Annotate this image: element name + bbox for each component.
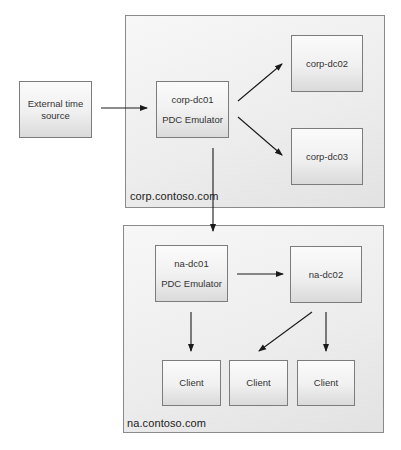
arrow-corp-dc01-to-corp-dc03 (238, 117, 282, 155)
arrow-na-dc02-to-client2 (259, 312, 312, 351)
arrow-corp-dc01-to-corp-dc02 (238, 64, 282, 101)
arrows-layer (0, 0, 401, 450)
